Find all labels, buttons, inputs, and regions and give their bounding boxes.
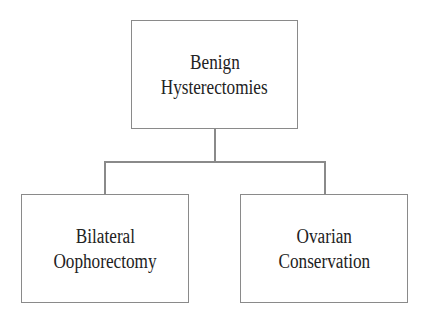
child-node-bilateral-oophorectomy: Bilateral Oophorectomy — [21, 194, 189, 303]
connector-horizontal — [104, 161, 325, 163]
child-node-1-label-line-2: Oophorectomy — [53, 249, 156, 274]
child-node-2-label-line-2: Conservation — [278, 249, 370, 274]
connector-left-down — [104, 161, 106, 195]
connector-right-down — [324, 161, 326, 195]
child-node-2-label-line-1: Ovarian — [296, 224, 351, 249]
connector-root-down — [214, 128, 216, 162]
root-node-label-line-1: Benign — [190, 50, 240, 75]
child-node-ovarian-conservation: Ovarian Conservation — [240, 194, 408, 303]
root-node-label-line-2: Hysterectomies — [161, 75, 268, 100]
root-node-benign-hysterectomies: Benign Hysterectomies — [131, 20, 298, 129]
child-node-1-label-line-1: Bilateral — [75, 224, 134, 249]
